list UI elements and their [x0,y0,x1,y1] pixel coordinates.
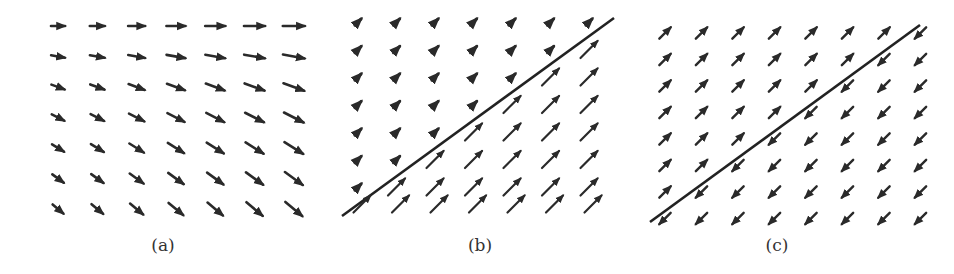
arrow-icon [659,133,670,144]
arrow-icon [393,19,399,25]
arrow-icon [732,27,743,38]
arrow-icon [167,84,185,90]
arrow-icon [696,160,707,171]
arrow-icon [168,143,184,153]
arrow-icon [355,129,361,135]
arrow-icon [769,107,780,118]
arrow-icon [842,27,853,38]
panel-a-vector-field [51,26,305,216]
arrow-icon [696,213,707,224]
arrow-icon [842,133,853,144]
arrow-icon [246,172,263,184]
arrow-icon [465,179,482,196]
arrow-icon [285,202,302,216]
arrow-icon [732,80,743,91]
arrow-icon [504,96,521,113]
arrow-icon [878,186,889,197]
arrow-icon [393,156,399,162]
arrow-icon [842,160,853,171]
arrow-icon [581,96,598,113]
arrow-icon [542,124,559,141]
arrow-icon [542,69,559,86]
arrow-icon [465,151,482,168]
arrow-icon [659,27,670,38]
arrow-icon [732,54,743,65]
arrow-icon [355,74,361,80]
arrow-icon [878,160,889,171]
arrow-icon [91,114,104,121]
arrow-icon [509,19,515,25]
arrow-icon [129,143,143,152]
arrow-icon [805,27,816,38]
arrow-icon [769,27,780,38]
arrow-icon [470,46,476,52]
vector-field-figure [0,0,954,274]
arrow-icon [878,133,889,144]
arrow-icon [696,107,707,118]
arrow-icon [915,213,926,224]
arrow-icon [842,54,853,65]
arrow-icon [90,55,105,58]
arrow-icon [128,55,145,58]
arrow-icon [355,184,361,190]
arrow-icon [581,41,598,58]
arrow-icon [207,173,223,185]
arrow-icon [205,55,225,58]
arrow-icon [509,74,515,80]
arrow-icon [355,46,361,52]
arrow-icon [542,179,559,196]
arrow-icon [915,54,926,65]
arrow-icon [51,85,64,90]
arrow-icon [51,55,65,57]
arrow-icon [805,54,816,65]
arrow-icon [586,19,592,25]
arrow-icon [509,46,515,52]
arrow-icon [504,124,521,141]
arrow-icon [91,144,104,152]
arrow-icon [283,83,304,91]
arrow-icon [504,151,521,168]
arrow-icon [581,69,598,86]
caption-a: (a) [151,235,174,255]
arrow-icon [206,113,224,122]
arrow-icon [659,186,670,197]
separator-line [342,18,614,216]
arrow-icon [355,19,361,25]
arrow-icon [659,80,670,91]
arrow-icon [878,27,889,38]
arrow-icon [696,133,707,144]
arrow-icon [696,54,707,65]
arrow-icon [167,113,184,122]
arrow-icon [769,54,780,65]
arrow-icon [732,133,743,144]
arrow-icon [581,124,598,141]
arrow-icon [915,107,926,118]
arrow-icon [355,101,361,107]
arrow-icon [245,83,265,90]
arrow-icon [769,160,780,171]
arrow-icon [245,113,264,123]
arrow-icon [470,19,476,25]
arrow-icon [432,74,438,80]
arrow-icon [585,196,602,213]
arrow-icon [878,107,889,118]
caption-c: (c) [766,235,789,255]
arrow-icon [432,101,438,107]
arrow-icon [284,113,304,123]
arrow-icon [393,46,399,52]
arrow-icon [283,55,305,59]
arrow-icon [207,143,224,154]
arrow-icon [169,203,184,215]
arrow-icon [508,196,525,213]
arrow-icon [542,151,559,168]
arrow-icon [393,101,399,107]
arrow-icon [52,174,63,182]
arrow-icon [659,54,670,65]
arrow-icon [246,142,264,153]
arrow-icon [805,160,816,171]
arrow-icon [769,213,780,224]
arrow-icon [842,213,853,224]
arrow-icon [470,74,476,80]
arrow-icon [244,55,265,59]
arrow-icon [91,174,103,183]
